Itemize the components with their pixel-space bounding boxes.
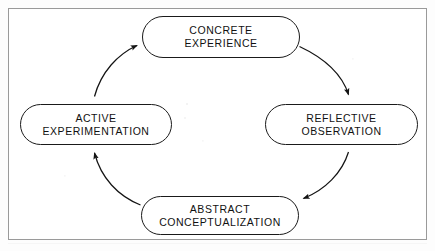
node-label-line2: EXPERIENCE bbox=[184, 37, 257, 50]
node-active-experimentation[interactable]: ACTIVE EXPERIMENTATION bbox=[20, 104, 172, 145]
node-label-line1: CONCRETE bbox=[189, 24, 252, 37]
node-label-line2: CONCEPTUALIZATION bbox=[159, 216, 281, 229]
node-label-line2: EXPERIMENTATION bbox=[42, 125, 149, 138]
node-abstract-conceptualization[interactable]: ABSTRACT CONCEPTUALIZATION bbox=[141, 196, 299, 235]
node-concrete-experience[interactable]: CONCRETE EXPERIENCE bbox=[142, 16, 300, 58]
node-label-line2: OBSERVATION bbox=[301, 125, 381, 138]
node-label-line1: ACTIVE bbox=[75, 112, 116, 125]
node-label-line1: REFLECTIVE bbox=[306, 112, 376, 125]
node-label-line1: ABSTRACT bbox=[190, 203, 250, 216]
node-reflective-observation[interactable]: REFLECTIVE OBSERVATION bbox=[265, 104, 418, 145]
diagram-canvas: CONCRETE EXPERIENCE REFLECTIVE OBSERVATI… bbox=[0, 0, 435, 251]
